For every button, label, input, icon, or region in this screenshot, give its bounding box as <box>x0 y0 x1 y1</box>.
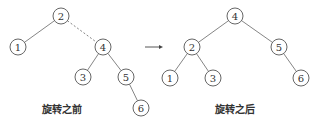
after-edge-2-1 <box>175 54 188 72</box>
before-node-5: 5 <box>118 69 134 85</box>
after-edge-5-6 <box>284 54 297 72</box>
caption-before: 旋转之前 <box>42 101 82 116</box>
caption-after: 旋转之后 <box>215 101 255 116</box>
before-node-4: 4 <box>95 39 111 55</box>
svg-text:1: 1 <box>15 42 21 53</box>
svg-text:2: 2 <box>189 42 195 53</box>
after-node-4: 4 <box>227 8 243 24</box>
svg-text:3: 3 <box>80 72 86 83</box>
svg-text:3: 3 <box>210 73 216 84</box>
before-node-2: 2 <box>53 8 69 24</box>
before-edge-5-6 <box>129 84 137 101</box>
after-edge-2-3 <box>196 54 208 72</box>
svg-text:2: 2 <box>58 11 64 22</box>
after-node-3: 3 <box>205 70 221 86</box>
arrow-head-icon <box>159 45 163 49</box>
svg-text:4: 4 <box>232 11 238 22</box>
after-node-5: 5 <box>271 39 287 55</box>
before-node-6: 6 <box>133 100 149 116</box>
svg-text:5: 5 <box>276 42 282 53</box>
before-node-3: 3 <box>75 69 91 85</box>
svg-text:6: 6 <box>298 73 304 84</box>
svg-text:6: 6 <box>138 103 144 114</box>
before-edge-2-1 <box>24 21 54 43</box>
svg-text:4: 4 <box>100 42 106 53</box>
after-edge-4-2 <box>198 21 228 43</box>
after-node-6: 6 <box>293 70 309 86</box>
after-node-2: 2 <box>184 39 200 55</box>
after-edge-4-5 <box>242 21 273 43</box>
before-edge-4-3 <box>87 54 98 71</box>
svg-text:1: 1 <box>167 73 173 84</box>
after-node-1: 1 <box>162 70 178 86</box>
before-node-1: 1 <box>10 39 26 55</box>
before-edge-2-4 <box>67 21 96 42</box>
svg-text:5: 5 <box>123 72 129 83</box>
before-edge-4-5 <box>108 53 121 70</box>
